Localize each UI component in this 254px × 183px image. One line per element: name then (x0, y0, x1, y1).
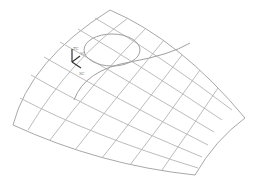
y-axis-label: YC (79, 51, 85, 56)
surface-viewport[interactable]: ZC YC XC (0, 0, 254, 183)
mesh-line-u4 (44, 57, 208, 145)
mesh-line-v4 (102, 55, 182, 158)
surface-mesh (13, 10, 245, 175)
mesh-line-v1 (28, 18, 128, 130)
axis-triad: ZC YC XC (72, 46, 85, 76)
mesh-line-u2 (78, 29, 222, 120)
spline-curve[interactable] (74, 43, 190, 100)
z-axis-label: ZC (73, 46, 79, 51)
ellipse-curve[interactable] (84, 34, 140, 66)
mesh-line-u1 (95, 18, 232, 110)
surface-boundary (13, 10, 245, 175)
mesh-line-u6 (20, 98, 198, 168)
x-axis-label: XC (79, 71, 84, 76)
